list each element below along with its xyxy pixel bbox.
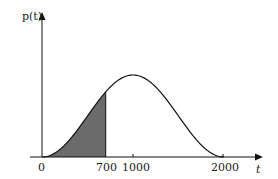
shaded-area-0-700	[42, 92, 106, 157]
x-axis-arrow-icon	[255, 154, 263, 161]
tick-label-2000: 2000	[211, 161, 239, 174]
y-axis-label: p(t)	[22, 10, 42, 23]
density-chart	[0, 0, 278, 179]
tick-label-700: 700	[96, 161, 117, 174]
x-axis-label: t	[256, 163, 260, 176]
tick-label-0: 0	[38, 161, 45, 174]
tick-label-1000: 1000	[122, 161, 150, 174]
